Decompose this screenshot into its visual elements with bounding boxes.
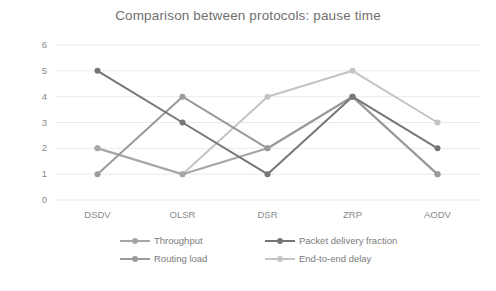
y-tick-label: 1 bbox=[25, 169, 47, 179]
data-point bbox=[435, 171, 441, 177]
x-tick-label: DSDV bbox=[84, 210, 110, 220]
x-tick-label: ZRP bbox=[343, 210, 362, 220]
data-point bbox=[435, 120, 441, 126]
legend-marker-icon bbox=[120, 254, 150, 263]
data-point bbox=[180, 171, 186, 177]
data-point bbox=[95, 68, 101, 74]
legend-marker-icon bbox=[265, 236, 295, 245]
legend-item[interactable]: Routing load bbox=[120, 254, 207, 264]
chart-container: Comparison between protocols: pause time… bbox=[0, 0, 496, 291]
data-point bbox=[350, 94, 356, 100]
data-point bbox=[265, 94, 271, 100]
legend-label: Routing load bbox=[154, 254, 207, 264]
series-line bbox=[98, 97, 438, 175]
legend-item[interactable]: End-to-end delay bbox=[265, 254, 371, 264]
series-routing-load bbox=[95, 94, 441, 178]
y-tick-label: 3 bbox=[25, 118, 47, 128]
legend-label: End-to-end delay bbox=[299, 254, 371, 264]
legend-item[interactable]: Throughput bbox=[120, 236, 203, 246]
series-throughput bbox=[95, 94, 441, 178]
series-line bbox=[98, 97, 438, 175]
x-tick-label: DSR bbox=[257, 210, 277, 220]
data-point bbox=[180, 120, 186, 126]
chart-legend: ThroughputPacket delivery fractionRoutin… bbox=[0, 236, 496, 284]
y-tick-label: 6 bbox=[25, 40, 47, 50]
legend-item[interactable]: Packet delivery fraction bbox=[265, 236, 397, 246]
data-point bbox=[180, 94, 186, 100]
data-point bbox=[435, 145, 441, 151]
x-tick-label: AODV bbox=[424, 210, 451, 220]
data-point bbox=[95, 145, 101, 151]
y-tick-label: 2 bbox=[25, 143, 47, 153]
x-tick-label: OLSR bbox=[170, 210, 196, 220]
y-tick-label: 5 bbox=[25, 66, 47, 76]
legend-label: Packet delivery fraction bbox=[299, 236, 397, 246]
data-point bbox=[95, 171, 101, 177]
data-point bbox=[265, 171, 271, 177]
legend-marker-icon bbox=[120, 236, 150, 245]
legend-marker-icon bbox=[265, 254, 295, 263]
data-point bbox=[265, 145, 271, 151]
y-tick-label: 4 bbox=[25, 92, 47, 102]
y-tick-label: 0 bbox=[25, 195, 47, 205]
legend-label: Throughput bbox=[154, 236, 203, 246]
data-point bbox=[350, 68, 356, 74]
